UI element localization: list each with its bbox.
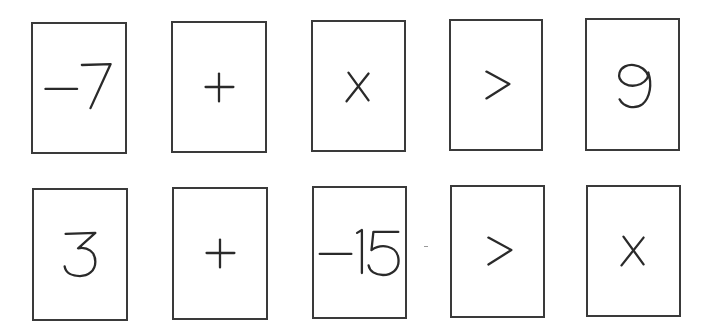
nine-glyph xyxy=(587,20,678,149)
greater-than-glyph xyxy=(452,187,543,316)
plus-glyph xyxy=(174,189,266,318)
card-row2-col1: 3 xyxy=(32,188,128,321)
card-row2-col3: −15 xyxy=(312,186,407,319)
stray-mark xyxy=(424,246,428,247)
negative-seven-glyph xyxy=(33,24,125,152)
card-row1-col2: + xyxy=(171,21,267,153)
card-row1-col1: −7 xyxy=(31,22,127,154)
variable-x-glyph xyxy=(313,22,404,150)
variable-x-glyph xyxy=(588,187,679,315)
three-glyph xyxy=(34,190,126,319)
card-row1-col5: 9 xyxy=(585,18,680,151)
card-row1-col4: > xyxy=(449,19,543,151)
negative-fifteen-glyph xyxy=(314,188,405,317)
card-row2-col2: + xyxy=(172,187,268,320)
card-row2-col4: > xyxy=(450,185,545,318)
greater-than-glyph xyxy=(451,21,541,149)
card-row1-col3: x xyxy=(311,20,406,152)
plus-glyph xyxy=(173,23,265,151)
card-row2-col5: x xyxy=(586,185,681,317)
